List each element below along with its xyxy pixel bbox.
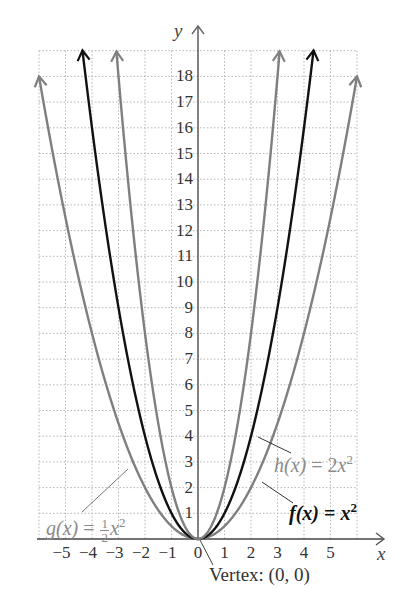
f-function-label: f(x) = x2 bbox=[289, 500, 357, 525]
y-tick-label: 8 bbox=[163, 323, 193, 343]
x-tick-label: 4 bbox=[289, 543, 319, 563]
y-tick-label: 9 bbox=[163, 298, 193, 318]
y-tick-label: 1 bbox=[163, 503, 193, 523]
x-tick-label: 0 bbox=[183, 543, 213, 563]
y-tick-label: 11 bbox=[163, 246, 193, 266]
x-tick-label: −2 bbox=[126, 543, 156, 563]
y-tick-label: 15 bbox=[163, 144, 193, 164]
x-tick-label: 3 bbox=[263, 543, 293, 563]
y-tick-label: 12 bbox=[163, 221, 193, 241]
x-tick-label: 5 bbox=[316, 543, 346, 563]
y-tick-label: 5 bbox=[163, 401, 193, 421]
x-tick-label: 2 bbox=[236, 543, 266, 563]
x-axis-label: x bbox=[377, 543, 385, 565]
y-tick-label: 14 bbox=[163, 169, 193, 189]
x-tick-label: −3 bbox=[100, 543, 130, 563]
fraction-one-half: 12 bbox=[100, 517, 109, 544]
y-tick-label: 2 bbox=[163, 478, 193, 498]
y-tick-label: 17 bbox=[163, 92, 193, 112]
y-tick-label: 10 bbox=[163, 272, 193, 292]
y-tick-label: 18 bbox=[163, 66, 193, 86]
y-tick-label: 7 bbox=[163, 349, 193, 369]
y-tick-label: 6 bbox=[163, 375, 193, 395]
x-tick-label: −1 bbox=[153, 543, 183, 563]
y-tick-label: 16 bbox=[163, 118, 193, 138]
x-tick-label: −4 bbox=[73, 543, 103, 563]
y-tick-label: 13 bbox=[163, 195, 193, 215]
y-axis-label: y bbox=[174, 20, 182, 42]
g-function-label: g(x) = 12x2 bbox=[46, 515, 125, 544]
h-function-label: h(x) = 2x2 bbox=[274, 452, 353, 477]
x-tick-label: −5 bbox=[47, 543, 77, 563]
y-tick-label: 3 bbox=[163, 452, 193, 472]
vertex-annotation: Vertex: (0, 0) bbox=[209, 564, 310, 586]
y-tick-label: 4 bbox=[163, 426, 193, 446]
x-tick-label: 1 bbox=[210, 543, 240, 563]
